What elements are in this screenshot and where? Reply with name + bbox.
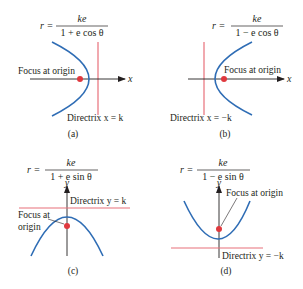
equation-d: r = ke 1 − e sin θ [180, 157, 250, 182]
equation-denominator: 1 + e cos θ [60, 27, 103, 38]
equation-numerator: ke [219, 157, 228, 168]
equation-a: r = ke 1 + e cos θ [40, 13, 108, 38]
equation-denominator: 1 − e cos θ [235, 27, 278, 38]
directrix-label: Directrix x = −k [170, 113, 232, 123]
focus-point [221, 76, 227, 82]
parabola-curve [215, 42, 252, 115]
focus-point [64, 223, 70, 229]
y-axis-label: y [64, 177, 70, 188]
conic-sections-diagram: r = ke 1 + e cos θ x Focus at origin Dir… [0, 0, 303, 289]
y-axis-label: y [216, 177, 222, 188]
focus-leader-line [221, 198, 237, 226]
directrix-label: Directrix x = k [67, 113, 124, 123]
focus-point [216, 226, 222, 232]
equation-lhs: r = [180, 164, 193, 175]
focus-point [77, 76, 83, 82]
focus-label: Focus at origin [226, 188, 283, 198]
equation-denominator: 1 − e sin θ [202, 171, 244, 182]
panel-a: r = ke 1 + e cos θ x Focus at origin Dir… [18, 13, 133, 140]
equation-b: r = ke 1 − e cos θ [212, 13, 283, 38]
equation-lhs: r = [212, 20, 225, 31]
equation-lhs: r = [27, 164, 40, 175]
equation-denominator: 1 + e sin θ [50, 171, 92, 182]
equation-numerator: ke [253, 13, 262, 24]
x-axis-label: x [127, 73, 133, 84]
equation-numerator: ke [78, 13, 87, 24]
x-axis-label: x [286, 73, 292, 84]
directrix-label: Directrix y = k [70, 196, 127, 206]
panel-d: r = ke 1 − e sin θ y Focus at origin Dir… [171, 157, 284, 277]
focus-label-line1: Focus at [18, 210, 50, 220]
directrix-label: Directrix y = −k [222, 251, 284, 261]
panel-caption: (b) [219, 129, 230, 140]
panel-caption: (d) [220, 266, 231, 277]
parabola-curve [184, 201, 250, 239]
equation-lhs: r = [40, 20, 53, 31]
panel-caption: (a) [68, 129, 79, 140]
focus-label: Focus at origin [224, 65, 281, 75]
panel-caption: (c) [68, 266, 79, 277]
equation-c: r = ke 1 + e sin θ [27, 157, 98, 182]
panel-b: r = ke 1 − e cos θ x Focus at origin Dir… [170, 13, 292, 140]
equation-numerator: ke [67, 157, 76, 168]
focus-label: Focus at origin [18, 66, 75, 76]
focus-label-line2: origin [18, 222, 41, 232]
panel-c: r = ke 1 + e sin θ y Focus at origin Dir… [18, 157, 130, 277]
